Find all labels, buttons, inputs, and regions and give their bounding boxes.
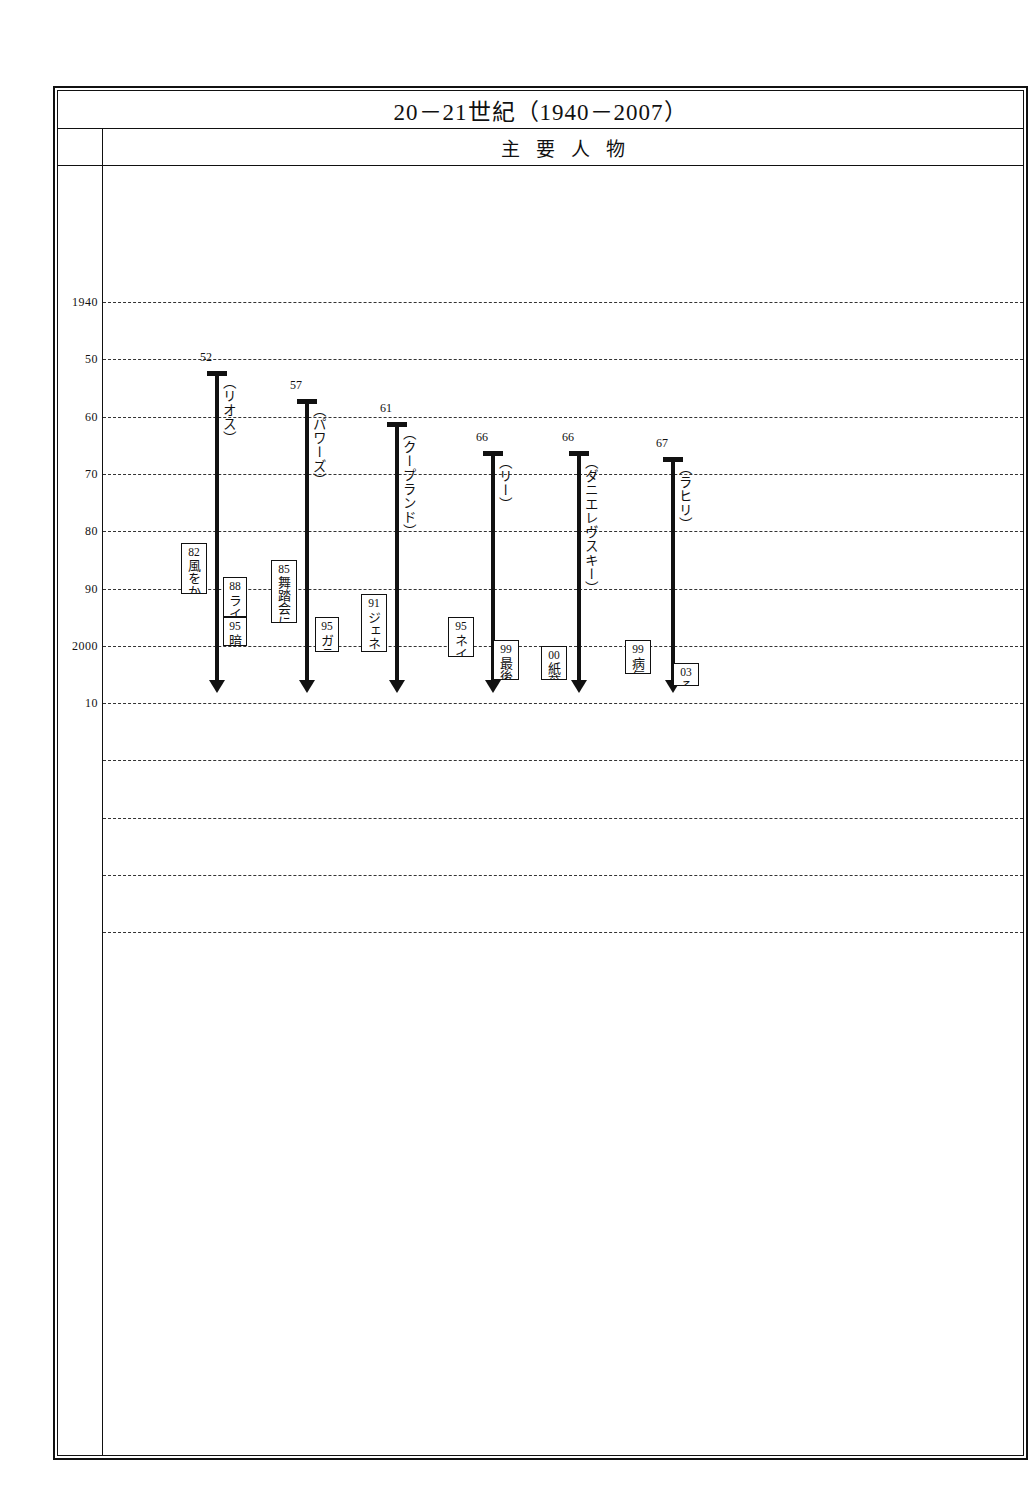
work-year-label: 91 <box>368 597 380 610</box>
work-title: ジェネレーションX <box>367 611 381 652</box>
work-title: ネイティヴ・スピーカー <box>454 634 468 657</box>
timeline-plot: 52（リオス）82風をからかうための嘘き88ライム園の女95暗号57（パワーズ）… <box>103 166 1023 1455</box>
chart-subtitle: 主要人物 <box>102 129 1023 165</box>
birth-year-label: 66 <box>555 431 581 443</box>
work-year-label: 88 <box>229 580 241 593</box>
work-box: 95暗号 <box>223 617 247 646</box>
work-year-label: 03 <box>680 666 692 679</box>
work-title: 舞踏会に向かう三人の農夫 <box>277 576 291 622</box>
year-tick-label: 50 <box>58 352 102 367</box>
work-box: 00紙葉の家 <box>541 646 567 680</box>
person-name: （リー） <box>497 455 511 511</box>
gridline <box>103 417 1023 418</box>
work-title: 最後の場所で <box>499 657 513 680</box>
year-tick-label: 10 <box>58 696 102 711</box>
person-name: （パワーズ） <box>311 403 325 487</box>
work-title: 暗号 <box>228 634 242 646</box>
arrow-down-icon <box>389 680 405 693</box>
arrow-down-icon <box>299 680 315 693</box>
gridline <box>103 875 1023 876</box>
work-year-label: 95 <box>321 620 333 633</box>
page-title: 20－21世紀（1940－2007） <box>394 93 688 127</box>
chart-title-band: 20－21世紀（1940－2007） <box>58 91 1023 129</box>
work-box: 99最後の場所で <box>493 640 519 680</box>
gridline <box>103 302 1023 303</box>
gridline <box>103 818 1023 819</box>
work-title: 風をからかうための嘘き <box>187 559 201 594</box>
person-name: （リオス） <box>221 375 235 445</box>
gridline <box>103 703 1023 704</box>
arrow-down-icon <box>485 680 501 693</box>
work-box: 91ジェネレーションX <box>361 594 387 651</box>
work-box: 88ライム園の女 <box>223 577 247 617</box>
work-title: その名にちなんで <box>679 680 693 686</box>
birth-year-label: 61 <box>373 402 399 414</box>
birth-year-label: 52 <box>193 351 219 363</box>
life-bar <box>395 422 399 680</box>
person-name: （ラヒリ） <box>677 461 691 531</box>
work-year-label: 99 <box>500 643 512 656</box>
work-title: 紙葉の家 <box>547 662 561 680</box>
life-bar <box>577 451 581 680</box>
work-box: 95ガラテア2・2 <box>315 617 339 651</box>
work-year-label: 85 <box>278 563 290 576</box>
life-bar <box>305 399 309 680</box>
gridline <box>103 474 1023 475</box>
birth-year-label: 67 <box>649 437 675 449</box>
gridline <box>103 760 1023 761</box>
year-axis: 19405060708090200010 <box>58 166 102 1455</box>
work-year-label: 95 <box>455 620 467 633</box>
work-title: ライム園の女 <box>228 594 242 617</box>
work-title: 病気の通訳 <box>631 657 645 675</box>
person-name: （クープランド） <box>401 426 415 538</box>
work-box: 85舞踏会に向かう三人の農夫 <box>271 560 297 623</box>
year-tick-label: 80 <box>58 524 102 539</box>
work-box: 82風をからかうための嘘き <box>181 543 207 595</box>
work-year-label: 99 <box>632 643 644 656</box>
birth-year-label: 57 <box>283 379 309 391</box>
work-box: 99病気の通訳 <box>625 640 651 674</box>
work-box: 95ネイティヴ・スピーカー <box>448 617 474 657</box>
work-year-label: 95 <box>229 620 241 633</box>
work-year-label: 82 <box>188 546 200 559</box>
birth-year-label: 66 <box>469 431 495 443</box>
work-title: ガラテア2・2 <box>320 634 334 652</box>
work-year-label: 00 <box>548 649 560 662</box>
gridline <box>103 531 1023 532</box>
year-tick-label: 90 <box>58 581 102 596</box>
work-box: 03その名にちなんで <box>673 663 699 686</box>
gridline <box>103 359 1023 360</box>
life-bar <box>671 457 675 680</box>
arrow-down-icon <box>209 680 225 693</box>
person-name: （ダニエレヴスキー） <box>583 455 597 595</box>
gridline <box>103 932 1023 933</box>
year-tick-label: 70 <box>58 466 102 481</box>
life-bar <box>215 371 219 680</box>
chart-inner-frame: 20－21世紀（1940－2007） 主要人物 1940506070809020… <box>57 90 1024 1456</box>
year-tick-label: 1940 <box>58 295 102 310</box>
year-tick-label: 60 <box>58 409 102 424</box>
chart-subtitle-band: 主要人物 <box>58 129 1023 166</box>
arrow-down-icon <box>571 680 587 693</box>
chart-page: 20－21世紀（1940－2007） 主要人物 1940506070809020… <box>53 86 1028 1460</box>
year-tick-label: 2000 <box>58 638 102 653</box>
